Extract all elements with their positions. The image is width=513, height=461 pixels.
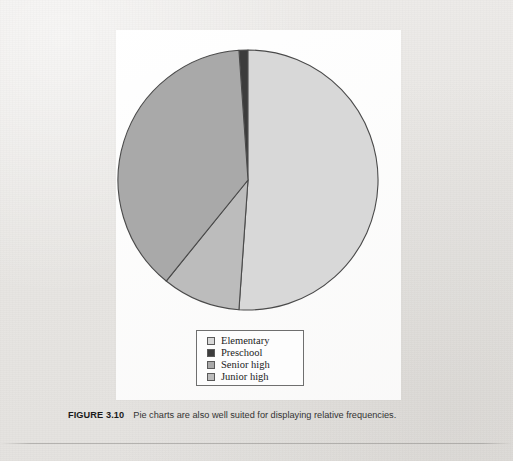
legend-item-junior-high: Junior high [207,371,303,383]
legend-swatch-preschool [207,349,215,357]
legend-item-elementary: Elementary [207,335,303,347]
legend-swatch-elementary [207,337,215,345]
legend-swatch-senior-high [207,361,215,369]
page-bottom-rule [0,443,513,444]
legend-swatch-junior-high [207,373,215,381]
legend-label-elementary: Elementary [221,335,269,347]
chart-legend: Elementary Preschool Senior high Junior … [196,330,304,386]
legend-item-senior-high: Senior high [207,359,303,371]
legend-label-senior-high: Senior high [221,359,270,371]
figure-caption: FIGURE 3.10Pie charts are also well suit… [68,409,468,422]
figure-caption-label: FIGURE 3.10 [68,410,124,420]
legend-label-preschool: Preschool [221,347,262,359]
legend-item-preschool: Preschool [207,347,303,359]
figure-caption-text: Pie charts are also well suited for disp… [133,410,396,420]
legend-label-junior-high: Junior high [221,371,269,383]
